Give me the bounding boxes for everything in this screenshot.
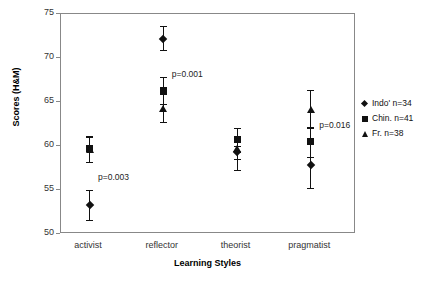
error-bar-cap [307, 188, 314, 189]
p-value-annotation: p=0.001 [172, 69, 203, 79]
error-bar-cap [160, 77, 167, 78]
legend-item-label: Fr. n=38 [372, 128, 403, 138]
triangle-icon [307, 106, 315, 113]
error-bar-cap [307, 157, 314, 158]
x-tick-label: theorist [196, 240, 276, 250]
error-bar-cap [86, 137, 93, 138]
diamond-icon [159, 34, 167, 42]
triangle-icon [233, 145, 241, 152]
y-tick-label: 75 [26, 8, 54, 17]
y-tick-label: 65 [26, 96, 54, 105]
p-value-annotation: p=0.003 [98, 172, 129, 182]
error-bar-cap [86, 162, 93, 163]
plot-area: p=0.003p=0.001p=0.016 [60, 13, 355, 233]
error-bar-cap [160, 94, 167, 95]
y-axis-title: Scores (H&M) [11, 47, 21, 147]
square-icon [307, 138, 314, 145]
y-tick-label: 60 [26, 140, 54, 149]
legend-item-label: Chin. n=41 [372, 113, 413, 123]
error-bar-cap [234, 170, 241, 171]
legend-item: Chin. n=41 [362, 112, 424, 127]
y-tick-label: 55 [26, 184, 54, 193]
x-tick-label: reflector [122, 240, 202, 250]
x-tick-label: pragmatist [269, 240, 349, 250]
error-bar-cap [86, 190, 93, 191]
x-axis-title: Learning Styles [60, 258, 355, 268]
error-bar-cap [307, 90, 314, 91]
error-bar-cap [234, 159, 241, 160]
legend-item: Indo' n=34 [362, 97, 424, 112]
p-value-annotation: p=0.016 [319, 120, 350, 130]
legend-item: Fr. n=38 [362, 127, 424, 142]
square-icon [160, 87, 167, 94]
y-tick-label: 70 [26, 52, 54, 61]
error-bar-cap [234, 137, 241, 138]
diamond-icon [85, 201, 93, 209]
y-tick-mark [56, 233, 60, 234]
triangle-icon [362, 131, 368, 137]
diamond-icon [361, 100, 368, 107]
error-bar-cap [160, 50, 167, 51]
error-bar-cap [307, 128, 314, 129]
legend-item-label: Indo' n=34 [372, 98, 412, 108]
square-icon [362, 116, 368, 122]
error-bar-cap [160, 26, 167, 27]
legend: Indo' n=34 Chin. n=41 Fr. n=38 [362, 97, 424, 142]
diamond-icon [307, 161, 315, 169]
y-tick-label: 50 [26, 228, 54, 237]
scatter-chart: Scores (H&M) 505560657075 p=0.003p=0.001… [0, 0, 425, 282]
error-bar-cap [160, 122, 167, 123]
triangle-icon [86, 146, 94, 153]
error-bar-cap [86, 220, 93, 221]
triangle-icon [159, 105, 167, 112]
error-bar-cap [234, 128, 241, 129]
x-tick-label: activist [48, 240, 128, 250]
